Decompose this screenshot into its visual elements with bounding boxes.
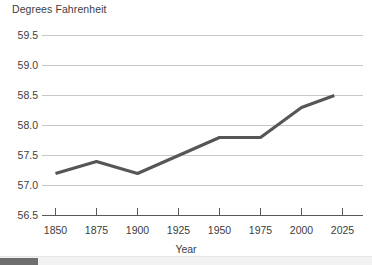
y-tick-label-58-5: 58.5 [18,89,39,101]
temperature-series-line [56,96,335,174]
x-tick-label-1900: 1900 [126,224,150,236]
x-tick-label-2000: 2000 [290,224,314,236]
horizontal-scrollbar[interactable] [0,256,372,265]
x-tick-label-1875: 1875 [85,224,109,236]
x-tick-label-1850: 1850 [44,224,68,236]
y-tick-label-58-0: 58.0 [18,119,39,131]
x-tick-label-1975: 1975 [249,224,273,236]
x-tick-label-1950: 1950 [208,224,232,236]
y-tick-label-57-5: 57.5 [18,149,39,161]
y-tick-label-59-5: 59.5 [18,29,39,41]
scrollbar-thumb[interactable] [0,258,38,265]
temperature-line-chart: Degrees Fahrenheit 59.5 59.0 58.5 58.0 5… [0,0,372,265]
y-tick-label-57-0: 57.0 [18,179,39,191]
y-tick-label-59-0: 59.0 [18,59,39,71]
x-tick-label-1925: 1925 [167,224,191,236]
y-tick-label-56-5: 56.5 [18,209,39,221]
x-tick-label-2025: 2025 [331,224,355,236]
chart-plot-area: 59.5 59.0 58.5 58.0 57.5 57.0 56.5 1850 … [0,0,372,265]
x-axis-title: Year [0,243,372,255]
